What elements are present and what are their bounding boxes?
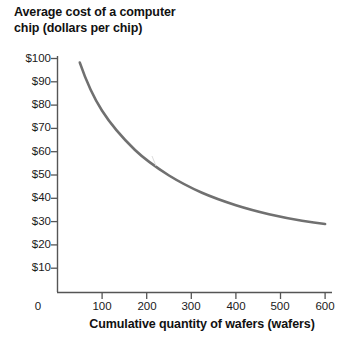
y-tick-label-10: $10 (5, 261, 51, 273)
y-tick-label-80: $80 (5, 98, 51, 110)
x-tick-label-300: 300 (171, 300, 211, 312)
y-tick-label-20: $20 (5, 238, 51, 250)
y-tick-label-60: $60 (5, 145, 51, 157)
x-tick-label-600: 600 (305, 300, 345, 312)
x-axis-ticks (102, 293, 325, 300)
y-tick-label-90: $90 (5, 75, 51, 87)
chart-figure: Average cost of a computer chip (dollars… (0, 0, 349, 347)
x-tick-label-500: 500 (260, 300, 300, 312)
y-tick-label-50: $50 (5, 168, 51, 180)
origin-label: 0 (28, 300, 48, 312)
y-axis-ticks (51, 59, 58, 269)
y-tick-label-70: $70 (5, 121, 51, 133)
cost-curve (80, 63, 325, 224)
x-tick-label-200: 200 (127, 300, 167, 312)
y-tick-label-100: $100 (5, 52, 51, 64)
x-tick-label-400: 400 (216, 300, 256, 312)
x-axis-title: Cumulative quantity of wafers (wafers) (57, 317, 347, 331)
plot-area (0, 0, 349, 347)
x-tick-label-100: 100 (82, 300, 122, 312)
y-tick-label-30: $30 (5, 215, 51, 227)
y-tick-label-40: $40 (5, 191, 51, 203)
